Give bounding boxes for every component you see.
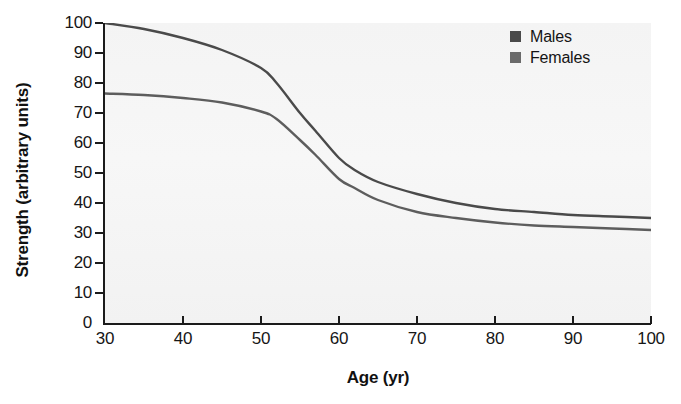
x-tick-label: 40 (153, 330, 213, 347)
legend-swatch-females (510, 52, 521, 63)
x-tick-mark (650, 316, 652, 324)
legend-item-females[interactable]: Females (510, 47, 590, 68)
x-tick-label: 90 (543, 330, 603, 347)
y-tick-label: 80 (40, 74, 92, 91)
legend-label-males: Males (530, 28, 572, 46)
series-line-females (105, 94, 651, 231)
x-tick-label: 100 (621, 330, 681, 347)
chart-legend: Males Females (510, 26, 590, 68)
y-tick-label: 20 (40, 254, 92, 271)
y-tick-mark (95, 112, 103, 114)
plot-area (105, 23, 651, 323)
y-tick-mark (95, 22, 103, 24)
x-tick-label: 50 (231, 330, 291, 347)
y-tick-mark (95, 142, 103, 144)
y-tick-mark (95, 292, 103, 294)
legend-label-females: Females (530, 49, 590, 67)
x-tick-mark (338, 316, 340, 324)
legend-item-males[interactable]: Males (510, 26, 590, 47)
x-axis-title: Age (yr) (105, 368, 651, 388)
y-axis-title: Strength (arbitrary units) (13, 20, 33, 340)
y-tick-label: 100 (40, 14, 92, 31)
x-tick-label: 70 (387, 330, 447, 347)
y-tick-label: 30 (40, 224, 92, 241)
y-tick-label: 90 (40, 44, 92, 61)
y-tick-mark (95, 202, 103, 204)
x-tick-mark (494, 316, 496, 324)
y-tick-mark (95, 232, 103, 234)
x-tick-label: 60 (309, 330, 369, 347)
y-tick-mark (95, 82, 103, 84)
y-tick-mark (95, 172, 103, 174)
series-lines (105, 23, 651, 323)
y-tick-label: 0 (40, 314, 92, 331)
y-tick-mark (95, 52, 103, 54)
legend-swatch-males (510, 31, 521, 42)
x-tick-label: 30 (75, 330, 135, 347)
y-tick-mark (95, 262, 103, 264)
y-tick-label: 10 (40, 284, 92, 301)
y-tick-label: 50 (40, 164, 92, 181)
y-tick-label: 40 (40, 194, 92, 211)
y-tick-label: 60 (40, 134, 92, 151)
x-tick-mark (260, 316, 262, 324)
chart-figure: Strength (arbitrary units) 0102030405060… (0, 0, 681, 404)
x-tick-mark (182, 316, 184, 324)
x-tick-mark (572, 316, 574, 324)
x-tick-label: 80 (465, 330, 525, 347)
x-tick-mark (416, 316, 418, 324)
y-tick-label: 70 (40, 104, 92, 121)
x-axis-line (103, 323, 651, 325)
